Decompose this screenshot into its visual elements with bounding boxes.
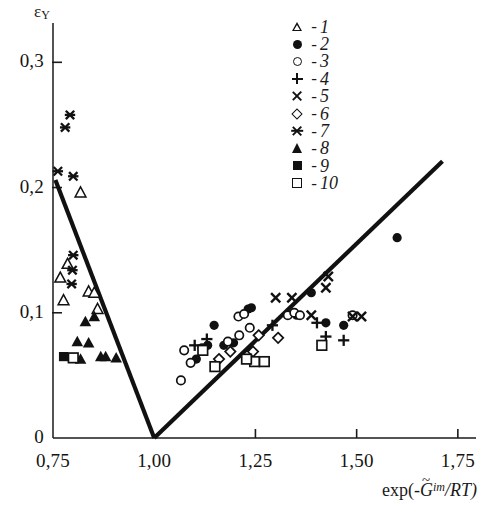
data-point-series-3 — [180, 346, 188, 354]
data-point-series-8 — [83, 337, 95, 347]
x-axis-title: exp(-~Gim/RT) — [382, 480, 477, 501]
legend-dash: - — [308, 70, 320, 87]
data-point-series-10 — [242, 354, 252, 364]
data-point-series-2 — [393, 233, 402, 242]
data-point-series-10 — [317, 341, 327, 351]
legend-dash: - — [308, 123, 320, 140]
star-icon — [286, 126, 308, 137]
legend-dash: - — [308, 105, 320, 122]
legend-item-1: -1 — [286, 18, 394, 35]
x-axis-tilde: ~ — [420, 473, 432, 488]
x-tick-label-1: 1,00 — [124, 450, 184, 472]
data-point-series-6 — [273, 333, 283, 343]
data-point-series-1 — [58, 295, 69, 305]
y-tick-label-0: 0 — [0, 426, 44, 448]
legend-item-5: -5 — [286, 88, 394, 105]
data-point-series-5 — [307, 311, 316, 320]
x-tick-label-3: 1,50 — [327, 450, 387, 472]
legend-item-9: -9 — [286, 157, 394, 174]
chart-figure: εY exp(-~Gim/RT) -1-2-3-4-5-6-7-8-9-10 0… — [0, 0, 483, 515]
data-point-series-10 — [210, 362, 220, 372]
x-tick-label-4: 1,75 — [428, 450, 483, 472]
plus-icon — [286, 73, 308, 84]
data-point-series-10 — [260, 357, 270, 367]
plot-canvas — [0, 0, 483, 515]
open-square-icon — [286, 178, 308, 188]
x-axis-prefix: exp(- — [382, 480, 420, 500]
cross-icon — [286, 91, 308, 102]
legend-label-5: 5 — [320, 87, 329, 105]
filled-triangle-icon — [286, 143, 308, 153]
data-point-series-7 — [66, 280, 76, 288]
y-axis-title: εY — [34, 2, 50, 23]
filled-square-icon — [286, 161, 308, 170]
legend-dash: - — [308, 140, 320, 157]
legend-dash: - — [308, 18, 320, 35]
y-tick-label-2: 0,2 — [0, 176, 44, 198]
data-point-series-7 — [68, 251, 78, 259]
data-point-series-5 — [287, 293, 296, 302]
legend-label-8: 8 — [320, 139, 329, 157]
legend: -1-2-3-4-5-6-7-8-9-10 — [286, 18, 394, 192]
data-point-series-2 — [210, 321, 219, 330]
data-point-series-3 — [296, 311, 304, 319]
data-point-series-3 — [186, 359, 194, 367]
data-point-series-5 — [321, 283, 330, 292]
legend-item-3: -3 — [286, 53, 394, 70]
y-tick-label-3: 0,3 — [0, 50, 44, 72]
x-tick-label-0: 0,75 — [23, 450, 83, 472]
data-point-series-3 — [235, 331, 243, 339]
data-point-series-2 — [339, 321, 348, 330]
y-tick-label-1: 0,1 — [0, 301, 44, 323]
data-point-series-5 — [357, 312, 366, 321]
legend-label-3: 3 — [320, 52, 329, 70]
data-point-series-1 — [55, 272, 66, 282]
data-point-series-3 — [240, 310, 248, 318]
data-point-series-2 — [247, 303, 256, 312]
legend-dash: - — [308, 53, 320, 70]
data-point-series-10 — [198, 346, 208, 356]
legend-label-2: 2 — [320, 35, 329, 53]
legend-item-2: -2 — [286, 35, 394, 52]
x-axis-suffix: /RT) — [445, 480, 477, 500]
legend-dash: - — [308, 175, 320, 192]
data-point-series-7 — [68, 172, 78, 180]
legend-item-4: -4 — [286, 70, 394, 87]
x-tick-label-2: 1,25 — [225, 450, 285, 472]
legend-label-9: 9 — [320, 157, 329, 175]
legend-dash: - — [308, 157, 320, 174]
filled-circle-icon — [286, 40, 308, 49]
legend-label-4: 4 — [320, 70, 329, 88]
data-point-series-5 — [271, 293, 280, 302]
data-point-series-4 — [338, 335, 349, 346]
open-triangle-icon — [286, 22, 308, 31]
data-point-series-3 — [177, 376, 185, 384]
data-point-series-7 — [65, 111, 75, 119]
legend-dash: - — [308, 88, 320, 105]
data-point-series-2 — [321, 318, 330, 327]
data-point-series-7 — [53, 167, 63, 175]
data-point-series-3 — [224, 337, 232, 345]
legend-label-1: 1 — [320, 18, 329, 36]
legend-label-7: 7 — [320, 122, 329, 140]
open-diamond-icon — [286, 110, 308, 118]
data-point-series-9 — [59, 352, 68, 361]
legend-item-10: -10 — [286, 175, 394, 192]
legend-label-10: 10 — [320, 174, 338, 192]
legend-item-6: -6 — [286, 105, 394, 122]
trend-line-right-branch — [154, 161, 442, 438]
legend-item-7: -7 — [286, 122, 394, 139]
data-point-series-4 — [311, 317, 322, 328]
trend-line-left-branch — [55, 180, 154, 438]
data-point-series-1 — [75, 187, 86, 197]
data-point-series-10 — [68, 353, 78, 363]
data-point-series-2 — [307, 288, 316, 297]
data-point-series-7 — [60, 123, 70, 131]
legend-label-6: 6 — [320, 105, 329, 123]
legend-item-8: -8 — [286, 140, 394, 157]
data-point-series-3 — [246, 324, 254, 332]
y-axis-subscript: Y — [41, 8, 50, 22]
legend-dash: - — [308, 36, 320, 53]
data-point-series-8 — [71, 336, 83, 346]
x-axis-superscript: im — [433, 480, 445, 494]
